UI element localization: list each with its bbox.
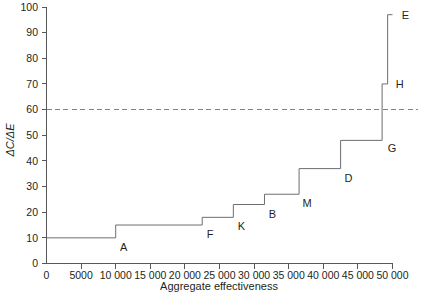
y-axis-ticks: 0102030405060708090100	[20, 1, 46, 270]
step-label-a: A	[120, 241, 128, 253]
x-tick-label: 45 000	[342, 269, 374, 281]
x-axis-ticks: 0500010 00015 00020 00025 00030 00035 00…	[44, 264, 409, 282]
step-label-d: D	[345, 172, 353, 184]
step-chart: 0102030405060708090100 0500010 00015 000…	[0, 0, 425, 298]
step-point-labels: AFKBMDGHE	[120, 9, 409, 253]
step-label-g: G	[388, 142, 397, 154]
y-tick-label: 30	[26, 180, 38, 192]
step-label-f: F	[207, 228, 214, 240]
step-label-b: B	[269, 208, 276, 220]
y-tick-label: 60	[26, 103, 38, 115]
chart-container: 0102030405060708090100 0500010 00015 000…	[0, 0, 425, 298]
axes	[47, 7, 393, 264]
y-tick-label: 80	[26, 52, 38, 64]
y-tick-label: 100	[20, 1, 38, 13]
y-tick-label: 90	[26, 26, 38, 38]
y-tick-label: 40	[26, 155, 38, 167]
step-label-h: H	[396, 78, 404, 90]
y-tick-label: 50	[26, 129, 38, 141]
y-axis-title: ΔC/ΔE	[4, 123, 16, 158]
x-tick-label: 40 000	[307, 269, 339, 281]
step-label-e: E	[402, 9, 409, 21]
x-tick-label: 50 000	[376, 269, 408, 281]
x-tick-label: 10 000	[100, 269, 132, 281]
x-tick-label: 5000	[69, 269, 93, 281]
y-tick-label: 10	[26, 232, 38, 244]
x-tick-label: 0	[44, 269, 50, 281]
y-tick-label: 70	[26, 78, 38, 90]
y-tick-label: 20	[26, 206, 38, 218]
efficiency-frontier-step-line	[47, 15, 393, 238]
x-axis-title: Aggregate effectiveness	[160, 280, 278, 292]
y-tick-label: 0	[32, 257, 38, 269]
step-label-m: M	[302, 197, 311, 209]
step-label-k: K	[238, 220, 246, 232]
